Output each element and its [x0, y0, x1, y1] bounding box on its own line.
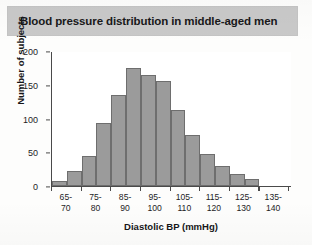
x-tick-label-line: 95- — [148, 192, 162, 203]
histogram-bar — [82, 156, 97, 186]
x-tick-label-line: 65- — [60, 192, 72, 203]
y-tick-mark — [46, 153, 50, 154]
x-tick-mark — [258, 187, 259, 191]
y-tick-label: 100 — [23, 115, 38, 125]
histogram-bar — [96, 123, 111, 186]
histogram-bar — [156, 81, 171, 186]
x-tick-label: 105-110 — [176, 192, 193, 213]
histogram-figure: Blood pressure distribution in middle-ag… — [0, 0, 312, 245]
histogram-bar — [185, 135, 200, 186]
x-tick-label: 65-70 — [60, 192, 72, 213]
x-tick-mark — [199, 187, 200, 191]
y-tick-mark — [46, 85, 50, 86]
x-tick-label: 115-120 — [206, 192, 223, 213]
x-tick-label-line: 140 — [265, 203, 282, 214]
x-tick-label: 125-130 — [235, 192, 252, 213]
histogram-bar — [52, 181, 67, 186]
y-tick-mark — [46, 51, 50, 52]
x-tick-label-line: 90 — [119, 203, 131, 214]
x-tick-mark — [51, 187, 52, 191]
x-tick-label-line: 105- — [176, 192, 193, 203]
x-tick-label-line: 120 — [206, 203, 223, 214]
x-tick-label: 85-90 — [119, 192, 131, 213]
x-tick-mark — [110, 187, 111, 191]
x-tick-label-line: 100 — [148, 203, 162, 214]
histogram-bar — [141, 75, 156, 186]
x-tick-label-line: 110 — [176, 203, 193, 214]
histogram-bar — [245, 179, 260, 186]
x-axis-ticks: 65-7075-8085-9095-100105-110115-120125-1… — [51, 187, 291, 221]
histogram-bar — [111, 95, 126, 186]
histogram-bar — [126, 68, 141, 186]
y-tick-mark — [46, 119, 50, 120]
x-tick-label-line: 130 — [235, 203, 252, 214]
y-tick-label: 200 — [23, 47, 38, 57]
plot-area — [52, 52, 291, 186]
histogram-bar — [67, 171, 82, 186]
x-tick-label: 75-80 — [89, 192, 101, 213]
x-tick-mark — [81, 187, 82, 191]
x-tick-label-line: 135- — [265, 192, 282, 203]
y-tick-label: 50 — [28, 148, 38, 158]
chart-title-banner: Blood pressure distribution in middle-ag… — [7, 6, 298, 36]
x-tick-mark — [288, 187, 289, 191]
histogram-bar — [215, 166, 230, 186]
x-tick-label-line: 75- — [89, 192, 101, 203]
x-tick-label: 135-140 — [265, 192, 282, 213]
histogram-bar — [200, 154, 215, 186]
y-tick-label: 0 — [33, 182, 38, 192]
page-title: Blood pressure distribution in middle-ag… — [20, 15, 277, 27]
x-tick-mark — [140, 187, 141, 191]
x-tick-label-line: 115- — [206, 192, 223, 203]
x-tick-mark — [170, 187, 171, 191]
histogram-bar — [171, 110, 186, 186]
histogram-bar — [230, 174, 245, 186]
x-tick-label-line: 85- — [119, 192, 131, 203]
y-tick-mark — [46, 186, 50, 187]
x-tick-label: 95-100 — [148, 192, 162, 213]
y-tick-label: 150 — [23, 81, 38, 91]
x-tick-label-line: 80 — [89, 203, 101, 214]
x-axis-title: Diastolic BP (mmHg) — [51, 221, 291, 232]
x-tick-mark — [229, 187, 230, 191]
plot-frame — [51, 52, 291, 187]
x-tick-label-line: 125- — [235, 192, 252, 203]
x-tick-label-line: 70 — [60, 203, 72, 214]
y-axis-ticks: 050100150200 — [8, 52, 46, 187]
